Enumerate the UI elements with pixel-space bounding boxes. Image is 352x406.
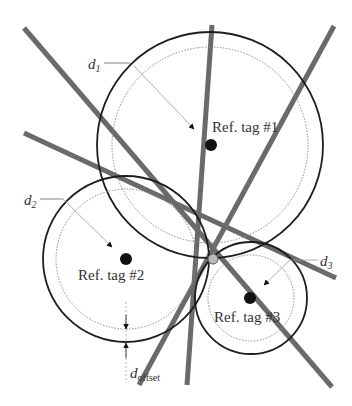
d-offset-label: doffset xyxy=(130,365,160,383)
tag2-label: Ref. tag #2 xyxy=(78,267,144,283)
line-c xyxy=(187,25,212,385)
trilateration-diagram: Ref. tag #1 Ref. tag #2 Ref. tag #3 d1 d… xyxy=(0,0,352,406)
tag1-label: Ref. tag #1 xyxy=(212,119,278,135)
tag3-label: Ref. tag #3 xyxy=(214,309,280,325)
tag3-radius-arrow xyxy=(264,260,290,285)
d3-label: d3 xyxy=(320,253,333,271)
estimation-lines xyxy=(24,25,336,387)
tag1-dot xyxy=(205,139,217,151)
tag2-radius-arrow xyxy=(63,199,112,247)
tag2-dot xyxy=(120,253,132,265)
tag1-radius-arrow xyxy=(134,66,194,129)
tag3-dot xyxy=(244,292,256,304)
intersection-point xyxy=(208,254,218,264)
d1-label: d1 xyxy=(88,56,101,74)
d2-label: d2 xyxy=(24,192,37,210)
